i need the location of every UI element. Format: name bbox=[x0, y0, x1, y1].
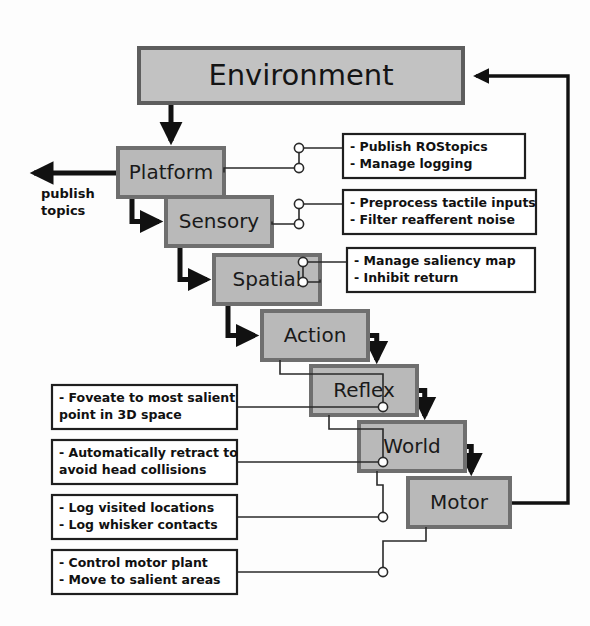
diagram-canvas: Environment PlatformSensorySpatialAction… bbox=[0, 0, 590, 626]
connector-dot bbox=[294, 143, 303, 152]
note-line: - Automatically retract to bbox=[59, 445, 238, 460]
note-world-note: - Log visited locations- Log whisker con… bbox=[52, 495, 237, 539]
layer-box-platform: Platform bbox=[118, 148, 224, 197]
layer-box-sensory: Sensory bbox=[166, 197, 272, 246]
environment-box: Environment bbox=[139, 48, 463, 103]
layer-label-spatial: Spatial bbox=[233, 267, 302, 291]
note-sensory-note: - Preprocess tactile inputs- Filter reaf… bbox=[343, 190, 536, 234]
note-line: - Preprocess tactile inputs bbox=[350, 195, 536, 210]
note-reflex-note: - Automatically retract toavoid head col… bbox=[52, 440, 238, 484]
note-motor-note: - Control motor plant- Move to salient a… bbox=[52, 550, 237, 594]
layer-box-action: Action bbox=[262, 311, 368, 360]
note-line: - Manage saliency map bbox=[354, 253, 516, 268]
note-line: - Manage logging bbox=[350, 156, 472, 171]
layer-box-motor: Motor bbox=[408, 478, 510, 527]
arrow-spatial-to-action bbox=[228, 304, 255, 336]
note-line: - Inhibit return bbox=[354, 270, 458, 285]
arrow-sensory-to-spatial bbox=[180, 246, 207, 280]
note-platform-note: - Publish ROStopics- Manage logging bbox=[343, 134, 525, 178]
note-line: - Log whisker contacts bbox=[59, 517, 218, 532]
layer-label-sensory: Sensory bbox=[179, 209, 260, 233]
publish-topics-line-2: topics bbox=[41, 203, 86, 218]
connector-dot bbox=[294, 199, 303, 208]
connector-dot bbox=[378, 457, 387, 466]
connector-dot bbox=[378, 512, 387, 521]
note-line: - Foveate to most salient bbox=[59, 390, 235, 405]
note-line: - Control motor plant bbox=[59, 555, 208, 570]
connector-dot bbox=[378, 567, 387, 576]
note-line: avoid head collisions bbox=[59, 462, 206, 477]
layer-label-world: World bbox=[383, 434, 440, 458]
note-line: point in 3D space bbox=[59, 407, 182, 422]
note-action-note: - Foveate to most salient point in 3D sp… bbox=[52, 385, 237, 429]
layer-label-reflex: Reflex bbox=[333, 378, 395, 402]
layer-label-motor: Motor bbox=[430, 490, 489, 514]
note-line: - Log visited locations bbox=[59, 500, 214, 515]
note-line: - Publish ROStopics bbox=[350, 139, 488, 154]
connector-dot bbox=[298, 277, 307, 286]
note-tail-line bbox=[377, 471, 383, 512]
note-spatial-note: - Manage saliency map- Inhibit return bbox=[347, 248, 535, 292]
publish-topics-label: publish topics bbox=[41, 186, 95, 218]
layer-label-action: Action bbox=[284, 323, 347, 347]
publish-topics-line-1: publish bbox=[41, 186, 95, 201]
architecture-diagram: Environment PlatformSensorySpatialAction… bbox=[0, 0, 590, 626]
note-line: - Move to salient areas bbox=[59, 572, 221, 587]
connector-dot bbox=[294, 163, 303, 172]
environment-label: Environment bbox=[208, 58, 393, 92]
connector-dot bbox=[378, 402, 387, 411]
connector-dot bbox=[294, 219, 303, 228]
note-line: - Filter reafferent noise bbox=[350, 212, 515, 227]
layer-label-platform: Platform bbox=[129, 160, 213, 184]
note-tail-line bbox=[383, 527, 426, 567]
arrow-platform-to-sensory bbox=[132, 197, 159, 222]
note-tail-line bbox=[224, 168, 299, 173]
connector-dot bbox=[298, 257, 307, 266]
